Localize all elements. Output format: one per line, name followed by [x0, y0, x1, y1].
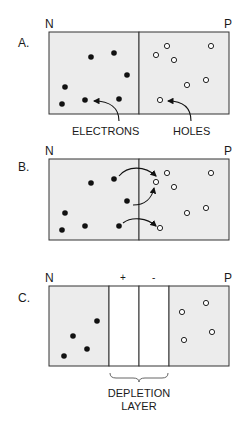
n-region-label: N [45, 17, 54, 31]
holes-label: HOLES [173, 125, 210, 137]
electron-dot [116, 223, 122, 229]
hole-dot [209, 329, 214, 334]
electron-dot [62, 210, 68, 216]
hole-dot [203, 205, 208, 210]
pn-junction-diagram: A. N P ELECTRONS HOLES B. N P C. N P + - [0, 0, 246, 424]
panel-a: A. N P ELECTRONS HOLES [18, 17, 232, 137]
hole-dot [164, 43, 169, 48]
depletion-caption-line2: LAYER [121, 400, 156, 412]
p-region-label: P [224, 17, 232, 31]
panel-b: B. N P [18, 144, 232, 240]
electron-dot [124, 72, 130, 78]
panel-a-label: A. [18, 36, 29, 50]
electron-dot [116, 96, 122, 102]
hole-dot [203, 77, 208, 82]
electron-dot [124, 198, 130, 204]
electron-dot [111, 50, 117, 56]
hole-dot [181, 337, 186, 342]
p-region-label: P [224, 271, 232, 285]
hole-dot [203, 300, 208, 305]
electrons-label: ELECTRONS [72, 125, 139, 137]
n-region-label: N [45, 271, 54, 285]
p-region [139, 159, 229, 240]
n-region [49, 286, 109, 366]
hole-dot [208, 43, 213, 48]
electron-dot [88, 54, 94, 60]
hole-dot [171, 57, 176, 62]
hole-dot [179, 309, 184, 314]
panel-c-label: C. [18, 291, 30, 305]
electron-dot [82, 97, 88, 103]
hole-dot [208, 170, 213, 175]
depletion-p-side [139, 286, 169, 366]
electron-dot [88, 180, 94, 186]
electron-dot [59, 227, 65, 233]
electron-dot [82, 223, 88, 229]
negative-charge-sign: - [152, 272, 155, 283]
depletion-n-side [109, 286, 139, 366]
n-region-label: N [45, 144, 54, 158]
hole-dot [157, 225, 162, 230]
positive-charge-sign: + [120, 272, 126, 283]
depletion-brace [110, 373, 168, 382]
p-region [139, 32, 229, 114]
electron-dot [84, 346, 90, 352]
hole-dot [157, 97, 162, 102]
panel-c: C. N P + - DEPLETION LAYER [18, 271, 232, 412]
electron-dot [62, 84, 68, 90]
electron-dot [111, 176, 117, 182]
p-region-label: P [224, 144, 232, 158]
electron-dot [59, 101, 65, 107]
hole-dot [184, 210, 189, 215]
electron-dot [61, 353, 67, 359]
electron-dot [70, 333, 76, 339]
hole-dot [171, 184, 176, 189]
panel-b-label: B. [18, 160, 29, 174]
p-region [169, 286, 229, 366]
hole-dot [184, 82, 189, 87]
electron-dot [94, 318, 100, 324]
hole-dot [153, 52, 158, 57]
hole-dot [164, 170, 169, 175]
depletion-caption-line1: DEPLETION [108, 387, 170, 399]
hole-dot [153, 179, 158, 184]
